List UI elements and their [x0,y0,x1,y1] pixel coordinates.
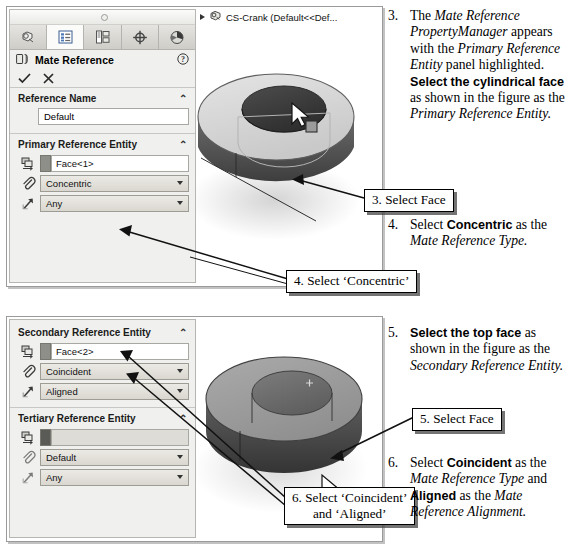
step-number: 6. [388,455,410,521]
instruction-step-3: 3. The Mate Reference PropertyManager ap… [388,8,572,123]
textbook-figure-page: Mate Reference ? [0,0,576,548]
graphics-area-top: CS-Crank (Default<<Def... [196,9,379,281]
chevron-down-icon[interactable] [177,181,183,185]
svg-text:?: ? [181,55,185,64]
step-text: Select Concentric as the Mate Reference … [410,217,572,250]
property-manager-title-row: Mate Reference ? [10,50,195,70]
alignment-arrow-icon [16,470,40,485]
section-header[interactable]: Secondary Reference Entity ⌃ [16,326,189,341]
model-view-top[interactable] [196,25,379,281]
secondary-entity-value[interactable]: Face<2> [51,343,189,360]
chevron-down-icon[interactable] [177,201,183,205]
primary-alignment-dropdown[interactable]: Any [40,195,189,212]
primary-mate-type-dropdown[interactable]: Concentric [40,175,189,192]
tertiary-mate-type-field: Default [16,449,189,466]
section-header[interactable]: Primary Reference Entity ⌃ [16,138,189,153]
callout-select-concentric-4: 4. Select ‘Concentric’ [286,270,417,293]
chevron-down-icon[interactable] [177,475,183,479]
secondary-mate-type-field: Coincident [16,363,189,380]
chevron-down-icon[interactable] [177,389,183,393]
panel-pin-dot[interactable] [101,14,108,21]
callout-select-face-5: 5. Select Face [412,408,502,431]
chevron-down-icon[interactable] [177,369,183,373]
entity-color-swatch [40,429,51,446]
primary-mate-type-field: Concentric [16,175,189,192]
chevron-down-icon[interactable] [177,455,183,459]
primary-entity-value[interactable]: Face<1> [51,155,189,172]
flyout-tree-header[interactable]: CS-Crank (Default<<Def... [196,9,379,25]
primary-mate-type-value: Concentric [46,178,91,189]
section-header[interactable]: Tertiary Reference Entity ⌃ [16,412,189,427]
chevron-up-icon[interactable]: ⌃ [179,327,187,338]
entity-selection-icon [16,156,40,171]
help-icon[interactable]: ? [177,53,189,67]
reference-name-section: Reference Name ⌃ Default [10,88,195,131]
tree-item-label: CS-Crank (Default<<Def... [226,12,337,23]
entity-selection-icon [16,430,40,445]
primary-entity-field: Face<1> [16,155,189,172]
tertiary-entity-field [16,429,189,446]
alignment-arrow-icon [16,196,40,211]
step-number: 5. [388,325,410,374]
page-title: Mate Reference [35,54,114,66]
manager-tab-strip [10,25,195,50]
chevron-up-icon[interactable]: ⌃ [179,139,187,150]
solidworks-screenshot-top: Mate Reference ? [6,6,383,287]
step-number: 4. [388,217,410,250]
tertiary-reference-entity-section: Tertiary Reference Entity ⌃ [10,408,195,491]
secondary-alignment-dropdown[interactable]: Aligned [40,383,189,400]
primary-reference-entity-section: Primary Reference Entity ⌃ Face<1> [10,134,195,217]
section-title: Tertiary Reference Entity [18,413,136,424]
step-text: Select the top face as shown in the figu… [410,325,572,374]
entity-selection-icon [16,344,40,359]
instruction-step-5: 5. Select the top face as shown in the f… [388,325,572,374]
property-manager-panel-top: Mate Reference ? [9,9,196,283]
selection-marker-icon [306,121,317,132]
paperclip-icon [16,450,40,465]
section-header[interactable]: Reference Name ⌃ [16,92,189,107]
cancel-x-icon[interactable] [43,73,54,84]
secondary-entity-field: Face<2> [16,343,189,360]
panel-titlebar [10,10,195,25]
reference-name-input[interactable]: Default [38,108,189,125]
configuration-manager-tab[interactable] [84,25,121,49]
tertiary-mate-type-value: Default [46,452,76,463]
ok-cancel-row [10,70,195,88]
entity-color-swatch [40,343,51,360]
step-text: Select Coincident as the Mate Reference … [410,455,574,521]
reference-name-value: Default [44,111,74,122]
secondary-alignment-value: Aligned [46,386,78,397]
instruction-step-4: 4. Select Concentric as the Mate Referen… [388,217,572,250]
tertiary-alignment-field: Any [16,469,189,486]
secondary-mate-type-value: Coincident [46,366,91,377]
chevron-up-icon[interactable]: ⌃ [179,93,187,104]
step-text: The Mate Reference PropertyManager appea… [410,8,572,123]
part-icon [209,10,222,24]
accept-check-icon[interactable] [18,73,31,84]
primary-alignment-field: Any [16,195,189,212]
tertiary-alignment-value: Any [46,472,62,483]
feature-manager-tab[interactable] [10,25,47,49]
secondary-reference-entity-section: Secondary Reference Entity ⌃ Face<2> [10,320,195,405]
paperclip-icon [16,364,40,379]
instruction-step-6: 6. Select Coincident as the Mate Referen… [388,455,574,521]
section-title: Secondary Reference Entity [18,327,151,338]
property-manager-panel-bottom: Secondary Reference Entity ⌃ Face<2> [9,319,196,538]
dimxpert-manager-tab[interactable] [122,25,159,49]
section-title: Reference Name [18,93,96,104]
callout-select-face-3: 3. Select Face [364,189,454,212]
alignment-arrow-icon [16,384,40,399]
chevron-up-icon[interactable]: ⌃ [179,413,187,424]
entity-color-swatch [40,155,51,172]
tertiary-entity-value[interactable] [51,429,189,446]
mate-reference-icon [16,53,30,67]
tertiary-mate-type-dropdown[interactable]: Default [40,449,189,466]
property-manager-tab[interactable] [47,25,84,49]
section-title: Primary Reference Entity [18,139,137,150]
display-manager-tab[interactable] [159,25,195,49]
secondary-mate-type-dropdown[interactable]: Coincident [40,363,189,380]
tertiary-alignment-dropdown[interactable]: Any [40,469,189,486]
primary-alignment-value: Any [46,198,62,209]
expand-triangle-icon[interactable] [200,14,205,20]
step-number: 3. [388,8,410,123]
